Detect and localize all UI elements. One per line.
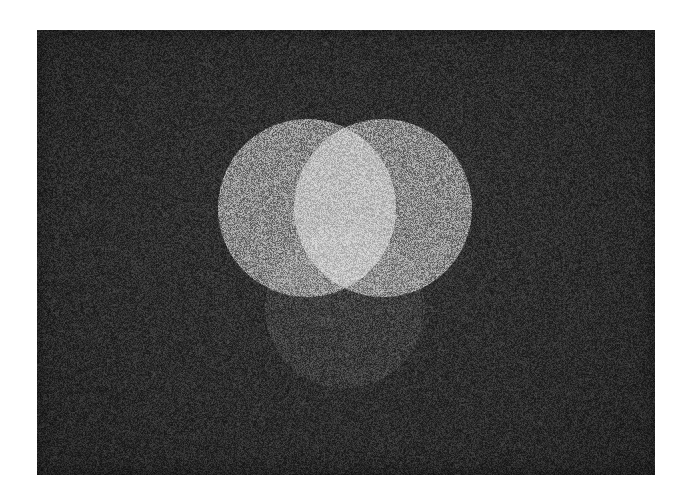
dark-photographic-plate: [37, 30, 655, 475]
photo-canvas: [0, 0, 689, 498]
lower-center-circle: [265, 228, 425, 388]
